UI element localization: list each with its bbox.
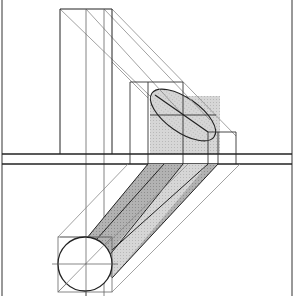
ground-line bbox=[2, 154, 292, 164]
cylinder-box bbox=[130, 82, 236, 164]
geometry-drawing bbox=[0, 0, 296, 296]
drawing-canvas bbox=[0, 0, 296, 296]
